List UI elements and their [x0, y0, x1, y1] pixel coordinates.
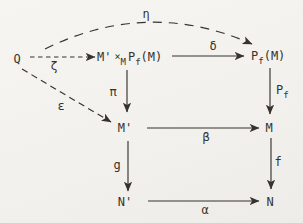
node-n: N	[266, 196, 273, 208]
arrow-layer	[0, 0, 303, 223]
arrow-f-label: f	[274, 156, 281, 168]
arrow-pi-label: π	[109, 86, 116, 98]
arrow-epsilon-label: ε	[57, 100, 64, 112]
node-pullback-arg: (M)	[141, 50, 163, 64]
node-pullback-times-sub: M	[120, 57, 125, 67]
node-pullback-p: P	[126, 50, 135, 64]
node-pf-of-m: Pf(M)	[251, 50, 285, 62]
arrow-eta-label: η	[142, 8, 149, 20]
arrow-pf-label-sub: f	[283, 90, 288, 100]
node-m-prime: M'	[118, 122, 132, 134]
node-pullback-m-prime: M'	[97, 50, 111, 64]
arrow-eta	[45, 22, 252, 49]
arrow-beta-label: β	[202, 131, 209, 143]
arrow-alpha-label: α	[201, 204, 208, 216]
arrow-pf-label: Pf	[276, 84, 289, 96]
node-pullback-p-sub: f	[135, 57, 140, 67]
node-n-prime: N'	[118, 196, 132, 208]
arrow-g-label: g	[113, 159, 120, 171]
arrow-zeta-label: ζ	[50, 60, 57, 72]
arrow-epsilon	[22, 69, 111, 122]
node-pullback: M'×MPf(M)	[97, 51, 162, 64]
node-m: M	[265, 122, 272, 134]
node-pf-of-m-sub: f	[258, 56, 263, 66]
node-pf-of-m-arg: (M)	[264, 49, 286, 63]
scanned-page: Q M'×MPf(M) Pf(M) M' M N' N η ζ ε δ π Pf…	[0, 0, 303, 223]
arrow-delta-label: δ	[209, 40, 216, 52]
node-q: Q	[13, 53, 20, 65]
